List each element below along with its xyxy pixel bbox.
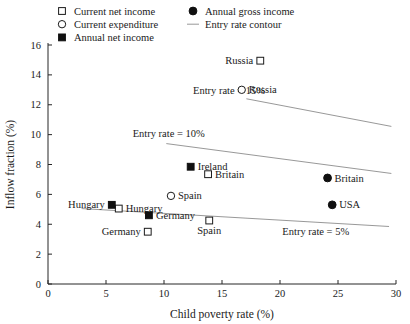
y-axis-tick-label: 8: [36, 159, 41, 170]
data-point-marker: [324, 174, 332, 182]
data-point-label: Hungary: [68, 199, 105, 210]
data-point-label: Britain: [335, 173, 365, 184]
x-axis-tick-label: 20: [275, 288, 286, 299]
legend-marker: [59, 34, 66, 41]
data-point-label: Russia: [225, 55, 253, 66]
chart-svg: 0510152025300246810121416Child poverty r…: [0, 0, 410, 324]
data-point-marker: [146, 212, 153, 219]
data-point-marker: [108, 201, 115, 208]
y-axis-tick-label: 0: [36, 279, 41, 290]
y-axis-tick-label: 14: [31, 69, 42, 80]
entry-rate-contour-label: Entry rate = 5%: [282, 226, 349, 237]
x-axis-tick-label: 5: [103, 288, 108, 299]
y-axis-tick-label: 6: [36, 189, 41, 200]
y-axis-tick-label: 10: [31, 129, 42, 140]
data-point-label: Spain: [197, 225, 222, 236]
x-axis-tick-label: 25: [333, 288, 344, 299]
data-point-marker: [257, 57, 264, 64]
y-axis-title: Inflow fraction (%): [4, 120, 17, 210]
data-point-marker: [328, 201, 336, 209]
data-point-marker: [206, 217, 213, 224]
y-axis-tick-label: 16: [31, 40, 42, 51]
data-point-label: Ireland: [198, 161, 228, 172]
legend-marker: [58, 21, 65, 28]
legend-marker: [59, 8, 66, 15]
data-point-label: Germany: [102, 226, 142, 237]
data-point-label: Spain: [178, 190, 203, 201]
x-axis-tick-label: 0: [45, 288, 50, 299]
y-axis-tick-label: 2: [36, 249, 41, 260]
x-axis-tick-label: 10: [159, 288, 170, 299]
legend-marker: [189, 7, 197, 15]
data-point-label: USA: [339, 199, 360, 210]
x-axis-tick-label: 30: [391, 288, 402, 299]
entry-rate-contour-label: Entry rate = 10%: [133, 128, 205, 139]
data-point-marker: [187, 163, 194, 170]
data-point-marker: [115, 205, 122, 212]
scatter-chart-figure: 0510152025300246810121416Child poverty r…: [0, 0, 410, 324]
x-axis-title: Child poverty rate (%): [170, 308, 274, 321]
legend-label: Current net income: [74, 6, 155, 17]
data-point-label: Russia: [249, 84, 277, 95]
y-axis-tick-label: 4: [36, 219, 42, 230]
legend-label: Current expenditure: [74, 19, 159, 30]
data-point-label: Germany: [156, 210, 196, 221]
legend-label: Entry rate contour: [205, 19, 282, 30]
legend-label: Annual net income: [74, 32, 154, 43]
x-axis-tick-label: 15: [217, 288, 228, 299]
y-axis-tick-label: 12: [31, 99, 42, 110]
data-point-marker: [167, 192, 174, 199]
entry-rate-contour-line: [246, 99, 391, 127]
data-point-marker: [238, 86, 245, 93]
data-point-marker: [144, 228, 151, 235]
legend-label: Annual gross income: [205, 6, 295, 17]
